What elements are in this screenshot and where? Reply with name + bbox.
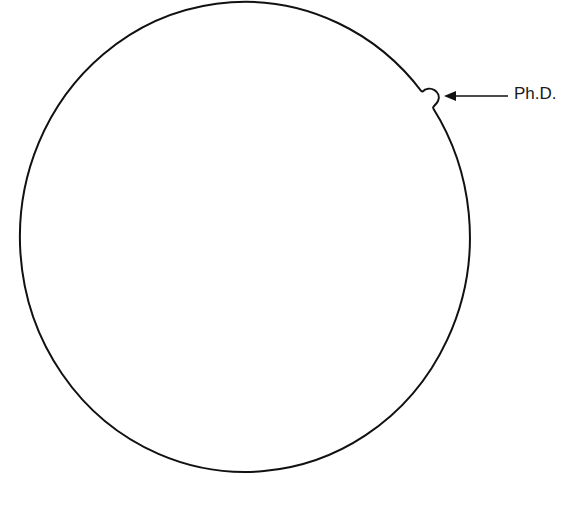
diagram-canvas [0, 0, 584, 512]
knowledge-circle [20, 2, 470, 472]
arrow-icon [444, 91, 508, 101]
phd-label: Ph.D. [514, 84, 557, 104]
phd-bump [422, 89, 439, 108]
